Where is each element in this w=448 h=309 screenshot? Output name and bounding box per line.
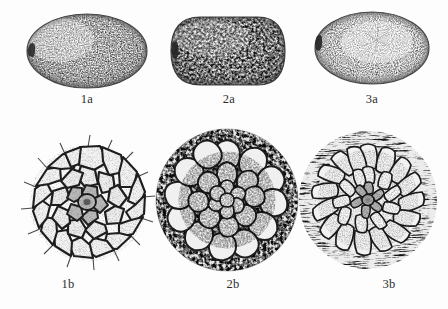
seed-coat-3b-drawing bbox=[292, 128, 447, 276]
seed-coat-1b-drawing bbox=[14, 138, 164, 273]
illustration-plate: 1a bbox=[0, 0, 448, 309]
figure-label-3a: 3a bbox=[332, 92, 412, 107]
figure-3b bbox=[292, 128, 447, 276]
figure-2b bbox=[150, 128, 305, 276]
figure-label-1b: 1b bbox=[28, 277, 108, 292]
figure-label-2b: 2b bbox=[193, 277, 273, 292]
seed-coat-2b-drawing bbox=[150, 128, 305, 276]
figure-3a bbox=[285, 0, 448, 100]
figure-label-2a: 2a bbox=[189, 92, 269, 107]
figure-label-1a: 1a bbox=[47, 92, 127, 107]
figure-label-3b: 3b bbox=[349, 277, 429, 292]
figure-1b bbox=[14, 138, 164, 273]
seed-3a-drawing bbox=[285, 0, 448, 100]
